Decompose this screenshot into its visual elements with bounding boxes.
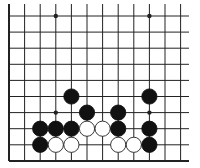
black-stone-icon (79, 105, 94, 120)
go-board (0, 0, 200, 168)
board-grid (9, 4, 189, 161)
black-stone-icon (33, 137, 48, 152)
star-point-icon (54, 110, 58, 114)
white-stone-icon (48, 137, 63, 152)
white-stone-icon (64, 137, 79, 152)
black-stone-icon (111, 121, 126, 136)
white-stone-icon (79, 121, 94, 136)
star-point-icon (54, 14, 58, 18)
black-stone-icon (142, 121, 157, 136)
black-stone-icon (142, 89, 157, 104)
black-stone-icon (142, 137, 157, 152)
black-stone-icon (64, 89, 79, 104)
black-stone-icon (33, 121, 48, 136)
black-stone-icon (111, 105, 126, 120)
black-stone-icon (64, 121, 79, 136)
star-point-icon (147, 14, 151, 18)
white-stone-icon (126, 137, 141, 152)
stones (33, 89, 157, 152)
white-stone-icon (111, 137, 126, 152)
star-point-icon (147, 110, 151, 114)
white-stone-icon (95, 121, 110, 136)
black-stone-icon (48, 121, 63, 136)
